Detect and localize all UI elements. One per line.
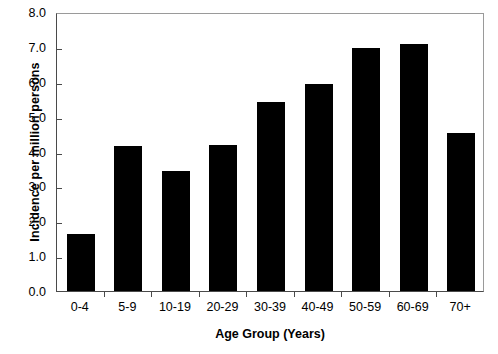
y-axis-tick-label: 7.0 — [14, 41, 46, 55]
x-axis-tick-label: 20-29 — [206, 300, 238, 314]
y-axis-tick-label: 6.0 — [14, 76, 46, 90]
bar-slot — [57, 14, 105, 291]
bar — [400, 44, 428, 291]
bar-chart-figure: Incidence per million persons 0.01.02.03… — [0, 0, 498, 354]
y-axis-tick-label: 4.0 — [14, 146, 46, 160]
x-axis-tick-mark — [104, 292, 105, 297]
x-axis-tick-label: 70+ — [450, 300, 471, 314]
plot-area — [56, 13, 484, 292]
x-axis-tick-mark — [341, 292, 342, 297]
bar-slot — [390, 14, 438, 291]
bar — [305, 84, 333, 292]
x-axis-tick-label: 10-19 — [159, 300, 191, 314]
bar-series — [57, 14, 483, 291]
x-axis-tick-mark — [246, 292, 247, 297]
bar — [114, 146, 142, 291]
x-axis-tick-mark — [151, 292, 152, 297]
x-axis-tick-mark — [294, 292, 295, 297]
y-axis-tick-label: 2.0 — [14, 215, 46, 229]
bar — [67, 234, 95, 291]
y-axis-tick-label: 1.0 — [14, 250, 46, 264]
bar — [352, 48, 380, 291]
x-axis-tick-mark — [389, 292, 390, 297]
x-axis-tick-labels: 0-45-910-1920-2930-3940-4950-5960-6970+ — [56, 300, 484, 318]
y-axis-tick-label: 0.0 — [14, 285, 46, 299]
bar-slot — [105, 14, 153, 291]
bar-slot — [342, 14, 390, 291]
x-axis-tick-label: 50-59 — [349, 300, 381, 314]
y-axis-tick-label: 5.0 — [14, 111, 46, 125]
x-axis-tick-label: 5-9 — [118, 300, 136, 314]
bar — [257, 102, 285, 291]
x-axis-tick-marks — [56, 292, 484, 298]
x-axis-tick-label: 60-69 — [397, 300, 429, 314]
bar-slot — [200, 14, 248, 291]
x-axis-tick-label: 0-4 — [71, 300, 89, 314]
bar-slot — [247, 14, 295, 291]
bar-slot — [437, 14, 485, 291]
y-axis-tick-label: 3.0 — [14, 180, 46, 194]
bar — [162, 171, 190, 291]
bar — [447, 133, 475, 291]
x-axis-tick-label: 30-39 — [254, 300, 286, 314]
y-axis-tick-label: 8.0 — [14, 6, 46, 20]
bar — [209, 145, 237, 291]
y-axis-tick-labels: 0.01.02.03.04.05.06.07.08.0 — [14, 13, 46, 292]
x-axis-title: Age Group (Years) — [56, 327, 484, 341]
x-axis-tick-mark — [199, 292, 200, 297]
x-axis-tick-mark — [436, 292, 437, 297]
bar-slot — [152, 14, 200, 291]
bar-slot — [295, 14, 343, 291]
x-axis-tick-label: 40-49 — [302, 300, 334, 314]
